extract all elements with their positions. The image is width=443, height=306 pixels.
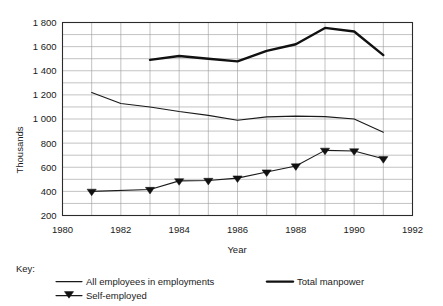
x-tick-label: 1990	[344, 224, 365, 235]
y-tick-label: 1 600	[33, 41, 57, 52]
chart-legend: All employees in employmentsTotal manpow…	[56, 276, 364, 301]
series-marker	[87, 189, 96, 196]
chart-canvas: 2004006008001 0001 2001 4001 6001 800 19…	[0, 0, 443, 306]
x-tick-label: 1992	[402, 224, 423, 235]
y-tick-label: 200	[41, 210, 57, 221]
legend-entry-label: Total manpower	[297, 276, 364, 287]
x-axis-tick-labels: 1980198219841986198819901992	[52, 224, 423, 235]
y-tick-label: 1 400	[33, 65, 57, 76]
y-tick-label: 1 800	[33, 17, 57, 28]
series-marker	[204, 178, 213, 185]
legend-key-label: Key:	[16, 263, 35, 274]
x-tick-label: 1984	[169, 224, 190, 235]
x-tick-label: 1982	[110, 224, 131, 235]
y-axis-title: Thousands	[14, 126, 25, 173]
employment-line-chart: 2004006008001 0001 2001 4001 6001 800 19…	[0, 0, 443, 306]
x-tick-label: 1980	[52, 224, 73, 235]
y-tick-label: 1 000	[33, 113, 57, 124]
y-tick-label: 800	[41, 138, 57, 149]
legend-swatch-down-triangle-icon	[64, 292, 73, 299]
y-tick-label: 400	[41, 186, 57, 197]
x-axis-title: Year	[227, 244, 246, 255]
series-marker	[379, 157, 388, 164]
y-tick-label: 1 200	[33, 89, 57, 100]
x-tick-label: 1986	[227, 224, 248, 235]
legend-entry-label: Self-employed	[86, 290, 147, 301]
y-tick-label: 600	[41, 162, 57, 173]
y-axis-tick-labels: 2004006008001 0001 2001 4001 6001 800	[33, 17, 57, 221]
series-marker	[145, 187, 154, 194]
x-tick-label: 1988	[285, 224, 306, 235]
legend-entry-label: All employees in employments	[86, 276, 215, 287]
series-marker	[320, 148, 329, 155]
